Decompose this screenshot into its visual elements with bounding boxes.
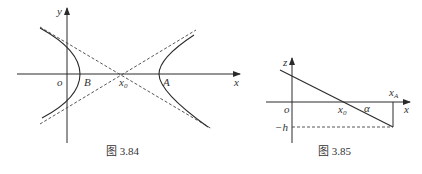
crossing-label: x0: [337, 103, 347, 117]
asymptote-descending: [40, 27, 212, 129]
x-axis-label: x: [233, 76, 239, 88]
figure-caption: 图 3.85: [318, 145, 352, 157]
y-axis-label: y: [56, 5, 62, 17]
depth-label: −h: [275, 121, 288, 133]
figures-canvas: y x o B x0 A 图 3.84 z x o x0 α xA −h 图 3…: [0, 0, 422, 174]
figure-3-84: y x o B x0 A 图 3.84: [17, 5, 240, 157]
z-axis-label: z: [282, 56, 288, 68]
hyperbola-left-branch: [40, 28, 80, 118]
figure-caption: 图 3.84: [106, 145, 140, 157]
point-b-label: B: [84, 76, 91, 88]
sloped-line: [280, 70, 393, 127]
x-axis-label: x: [403, 103, 409, 115]
origin-label: o: [284, 103, 290, 115]
angle-label: α: [364, 102, 370, 114]
figure-3-85: z x o x0 α xA −h 图 3.85: [266, 56, 410, 157]
point-a-label: A: [162, 76, 170, 88]
origin-label: o: [57, 76, 63, 88]
end-point-label: xA: [388, 86, 399, 100]
